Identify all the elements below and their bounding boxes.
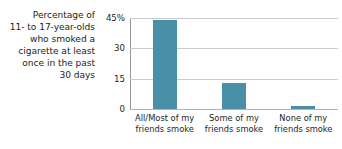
y-tick-label-30: 30 xyxy=(114,44,125,53)
x-axis-labels: All/Most of myfriends smokeSome of myfri… xyxy=(130,113,338,145)
bar-chart-figure: Percentage of 11- to 17-year-olds who sm… xyxy=(0,0,342,149)
y-tick-label-15: 15 xyxy=(114,74,125,83)
x-tick-label-1: Some of myfriends smoke xyxy=(199,113,268,134)
x-tick-label-0-line-1: friends smoke xyxy=(130,124,199,135)
x-tick-label-2-line-0: None of my xyxy=(269,113,338,124)
x-tick-label-0-line-0: All/Most of my xyxy=(130,113,199,124)
chart-title-line-3: who smoked a xyxy=(2,33,95,45)
chart-title-line-1: Percentage of xyxy=(2,9,95,21)
x-tick-label-1-line-1: friends smoke xyxy=(199,124,268,135)
gridline-45 xyxy=(130,18,338,19)
x-tick-label-2-line-1: friends smoke xyxy=(269,124,338,135)
y-axis-line xyxy=(130,18,131,109)
x-tick-label-0: All/Most of myfriends smoke xyxy=(130,113,199,134)
chart-title-line-5: once in the past xyxy=(2,57,95,69)
chart-title-line-4: cigarette at least xyxy=(2,45,95,57)
x-tick-label-2: None of myfriends smoke xyxy=(269,113,338,134)
chart-title-line-2: 11- to 17-year-olds xyxy=(2,21,95,33)
gridline-0 xyxy=(130,109,338,110)
chart-title: Percentage of 11- to 17-year-olds who sm… xyxy=(2,9,95,82)
bar-1 xyxy=(222,83,246,109)
x-tick-label-1-line-0: Some of my xyxy=(199,113,268,124)
y-tick-label-0: 0 xyxy=(120,105,125,114)
chart-title-line-6: 30 days xyxy=(2,69,95,81)
bar-2 xyxy=(291,106,315,109)
bar-0 xyxy=(153,20,177,109)
y-tick-label-45: 45% xyxy=(106,14,125,23)
plot-area: 0153045% xyxy=(130,18,338,109)
